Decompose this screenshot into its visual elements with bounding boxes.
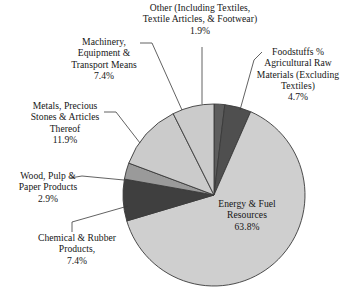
slice-label-metals: Metals, Precious Stones & Articles There…	[6, 100, 124, 145]
slice-label-foodstuffs: Foodstuffs % Agricultural Raw Materials …	[248, 46, 348, 102]
slice-label-machinery: Machinery, Equipment & Transport Means 7…	[52, 36, 156, 81]
pie-slice-group	[123, 104, 305, 286]
slice-label-wood: Wood, Pulp & Paper Products 2.9%	[0, 170, 96, 204]
pie-chart-figure: Other (Including Textiles, Textile Artic…	[0, 0, 348, 308]
slice-label-energy: Energy & Fuel Resources 63.8%	[192, 198, 302, 232]
slice-label-other: Other (Including Textiles, Textile Artic…	[126, 2, 274, 36]
slice-label-chemical: Chemical & Rubber Products, 7.4%	[18, 232, 136, 266]
leader-line-chemical	[72, 206, 128, 232]
